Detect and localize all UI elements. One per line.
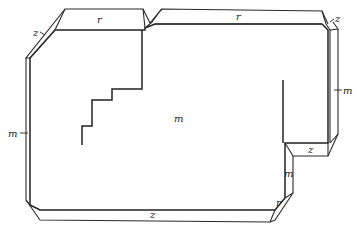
label-left-m: m [8, 128, 17, 139]
top-right-r-facet [155, 9, 328, 24]
bottom-r-facet [270, 193, 293, 222]
top-left-z-facet [26, 9, 65, 58]
label-top-left-r: r [97, 14, 103, 25]
label-center-m: m [174, 113, 183, 124]
label-top-right-r: r [236, 11, 242, 22]
label-top-right-z: z [334, 13, 341, 24]
top-left-r-facet [55, 9, 150, 30]
growth-steps [82, 30, 142, 145]
label-notch-z: z [307, 144, 314, 155]
crystal-diagram: r r z z m m m z m r z [0, 0, 359, 233]
right-z-leader [330, 19, 334, 22]
label-top-left-z: z [32, 27, 39, 38]
label-right-m: m [343, 85, 352, 96]
label-notch-m: m [284, 168, 293, 179]
left-z-leader [40, 32, 45, 35]
label-bottom-z: z [149, 209, 156, 220]
top-right-z-facet [322, 11, 338, 143]
